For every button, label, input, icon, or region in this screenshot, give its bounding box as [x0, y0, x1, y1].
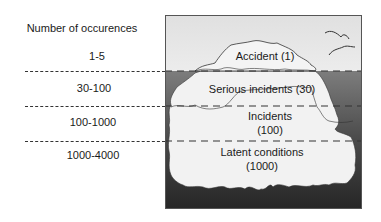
- occurrences-title: Number of occurences: [27, 22, 138, 34]
- incidents-count: (100): [248, 123, 292, 137]
- serious-incidents-label: Serious incidents (30): [209, 82, 315, 96]
- iceberg-scene: Accident (1) Serious incidents (30) Inci…: [165, 15, 362, 209]
- range-label-1000-4000: 1000-4000: [67, 149, 120, 161]
- divider-dash-1: [25, 71, 165, 72]
- incidents-name: Incidents: [248, 109, 292, 123]
- range-label-100-1000: 100-1000: [70, 116, 117, 128]
- range-label-1-5: 1-5: [89, 50, 105, 62]
- incidents-label: Incidents (100): [248, 109, 292, 137]
- latent-conditions-count: (1000): [220, 159, 303, 173]
- range-label-30-100: 30-100: [77, 82, 111, 94]
- divider-dash-3: [25, 141, 165, 142]
- latent-conditions-label: Latent conditions (1000): [220, 145, 303, 173]
- divider-dash-2: [25, 106, 165, 107]
- accident-label: Accident (1): [236, 49, 295, 63]
- latent-conditions-name: Latent conditions: [220, 145, 303, 159]
